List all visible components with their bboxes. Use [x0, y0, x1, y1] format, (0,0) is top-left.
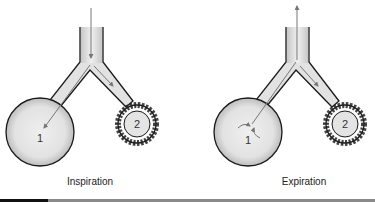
alveolus-1	[214, 98, 282, 166]
inspiration-panel: 1 2	[6, 8, 156, 166]
bottom-rule-dark	[0, 199, 48, 202]
expiration-panel: 1 2	[214, 6, 364, 166]
caption-expiration: Expiration	[244, 176, 364, 187]
alveoli-diagram: 1 2 1 2	[0, 0, 375, 202]
alveolus-1-label: 1	[37, 132, 43, 144]
alveolus-2-label: 2	[134, 118, 140, 130]
alveolus-1-label: 1	[245, 134, 251, 146]
caption-inspiration: Inspiration	[30, 176, 150, 187]
bottom-rule-gray	[48, 199, 375, 202]
alveolus-2-label: 2	[342, 118, 348, 130]
